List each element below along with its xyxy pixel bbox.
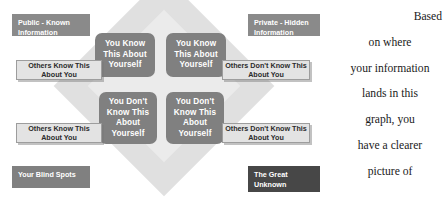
side-label-others-dont-know-bottom: Others Don't Know This About You (222, 123, 310, 143)
body-line: your information (338, 56, 442, 82)
side-label-others-know-top: Others Know This About You (16, 60, 102, 80)
quadrant-blind-area: You Don't Know This About Yourself (99, 92, 157, 144)
corner-label-blind-spots: Your Blind Spots (12, 166, 90, 188)
quadrant-open-area: You Know This About Yourself (95, 33, 155, 77)
corner-label-great-unknown: The Great Unknown (248, 166, 320, 192)
side-label-others-know-bottom: Others Know This About You (16, 123, 102, 143)
corner-label-public-known: Public - Known Information (12, 14, 90, 36)
quadrant-hidden-area: You Know This About Yourself (166, 33, 226, 77)
body-line: have a clearer (338, 133, 442, 159)
johari-window-diagram: Public - Known Information Private - Hid… (0, 0, 336, 219)
body-line: picture of (338, 159, 442, 185)
body-line: Based (338, 4, 442, 30)
quadrant-unknown-area: You Don't Know This About Yourself (166, 92, 224, 144)
body-line: on where (338, 30, 442, 56)
side-label-others-dont-know-top: Others Don't Know This About You (222, 60, 310, 80)
body-line: graph, you (338, 107, 442, 133)
body-line: lands in this (338, 81, 442, 107)
body-paragraph: Based on where your information lands in… (338, 4, 442, 185)
corner-label-private-hidden: Private - Hidden Information (248, 14, 320, 36)
